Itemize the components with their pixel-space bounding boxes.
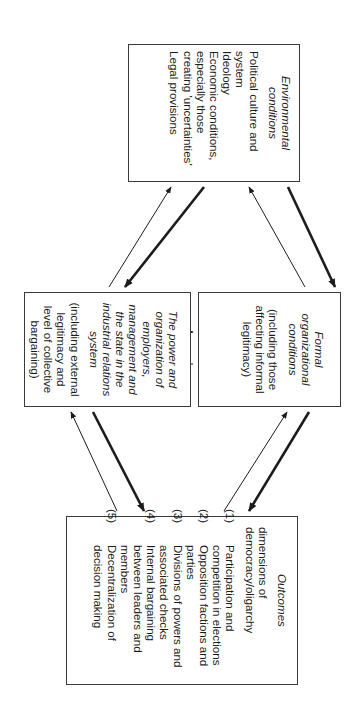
environmental-item: Political culture and system: [234, 51, 260, 175]
arrow-outcomes-to-power: [71, 412, 117, 511]
arrow-power-to-env: [109, 187, 171, 287]
arrow-formal-to-outcomes: [249, 412, 309, 511]
outcome-item: (1)Participation and competition in elec…: [211, 527, 237, 674]
outcome-text: Opposition factions and parties: [185, 545, 211, 666]
diagram-stage: Environmental conditions Political cultu…: [0, 0, 349, 701]
outcomes-title: Outcomes: [276, 527, 289, 674]
power-organization-box: The power and organization of employers,…: [24, 292, 191, 407]
outcome-text: Internal bargaining between leaders and …: [119, 545, 158, 653]
power-title: The power and organization of employers,…: [88, 299, 180, 400]
formal-organizational-box: Formal organizational conditions (includ…: [198, 292, 341, 407]
outcome-text: Divisions of powers and associated check…: [158, 545, 184, 667]
outcome-number: (5): [105, 527, 118, 545]
environmental-title: Environmental conditions: [267, 51, 293, 175]
outcome-number: (1): [224, 527, 237, 545]
arrow-env-to-power: [125, 187, 204, 287]
arrow-env-to-formal: [288, 187, 335, 287]
formal-subtitle: (including those affecting informal legi…: [241, 299, 281, 400]
environmental-conditions-box: Environmental conditions Political cultu…: [128, 44, 300, 182]
environmental-item: Legal provisions: [168, 51, 181, 175]
arrow-power-to-outcomes: [93, 412, 144, 511]
environmental-item: Ideology: [221, 51, 234, 175]
power-subtitle: (including external legitimacy and level…: [29, 299, 82, 400]
outcome-text: Decentralization of decision making: [92, 545, 118, 641]
outcome-number: (3): [171, 527, 184, 545]
outcomes-intro: dimensions of democracy/oligarchy: [243, 527, 269, 674]
arrow-formal-to-env: [249, 187, 305, 287]
outcomes-box: Outcomes dimensions of democracy/oligarc…: [66, 516, 298, 685]
outcome-number: (4): [145, 527, 158, 545]
outcome-item: (5)Decentralization of decision making: [92, 527, 118, 674]
outcome-text: Participation and competition in electio…: [211, 545, 237, 666]
formal-title: Formal organizational conditions: [286, 299, 326, 400]
outcome-item: (2)Opposition factions and parties: [185, 527, 211, 674]
outcome-number: (2): [198, 527, 211, 545]
outcome-item: (4)Internal bargaining between leaders a…: [119, 527, 159, 674]
outcome-item: (3)Divisions of powers and associated ch…: [158, 527, 184, 674]
environmental-item: Economic conditions, especially those cr…: [181, 51, 221, 175]
